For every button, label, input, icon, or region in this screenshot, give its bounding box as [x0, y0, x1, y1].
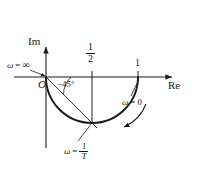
tick-label-one-half: 1 2 [86, 42, 95, 64]
real-axis-label: Re [168, 80, 180, 91]
omega-zero-label: ω = 0 [122, 98, 142, 107]
equals-symbol: = [15, 61, 20, 70]
omega-one-over-T-label: ω = 1 T [64, 142, 88, 162]
omega-infinity-leader [30, 70, 45, 76]
fraction-numerator: 1 [86, 42, 95, 54]
tick-label-one: 1 [135, 58, 140, 68]
omega-symbol: ω [122, 98, 128, 107]
omega-infinity-label: ω = ∞ [7, 60, 30, 70]
nyquist-plot-figure: Im Re O ω = ∞ −45° ω = 0 1 1 2 ω = 1 T [0, 0, 198, 170]
equals-symbol: = [72, 147, 77, 156]
fraction-denominator: 2 [86, 54, 95, 65]
origin-label: O [38, 79, 46, 90]
infinity-symbol: ∞ [22, 60, 29, 70]
equals-symbol: = [130, 98, 135, 107]
zero-value: 0 [137, 98, 142, 107]
fraction-denominator: T [79, 152, 88, 161]
imaginary-axis-label: Im [28, 36, 40, 47]
minus-45-degree-label: −45° [57, 80, 75, 89]
omega-symbol: ω [64, 147, 70, 156]
omega-symbol: ω [7, 61, 13, 70]
omega-1overT-leader [78, 123, 92, 141]
